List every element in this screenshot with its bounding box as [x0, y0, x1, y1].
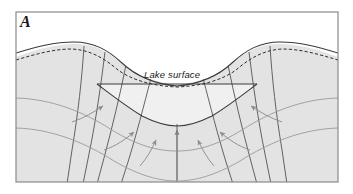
figure-container: A Lake surface [0, 0, 353, 194]
lake-surface-label: Lake surface [144, 70, 200, 80]
panel-label-a: A [20, 14, 31, 30]
flow-net-diagram [0, 0, 353, 194]
